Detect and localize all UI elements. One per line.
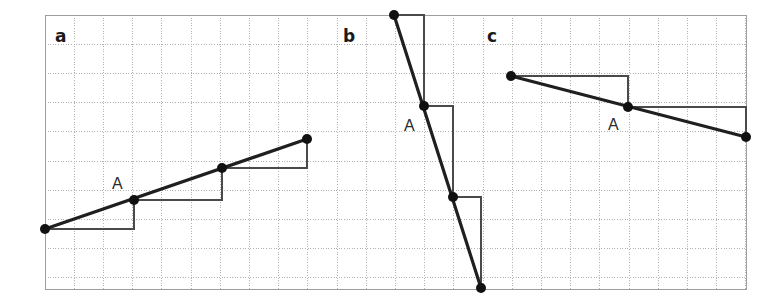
panel-letter-a: a [55, 26, 66, 46]
coordinate-grid [45, 15, 746, 289]
graph-point-b [448, 192, 458, 202]
point-label-a-a: A [112, 175, 123, 192]
graph-point-b [476, 283, 486, 293]
graph-point-c [623, 102, 633, 112]
graph-point-a [40, 224, 50, 234]
graph-point-a [302, 134, 312, 144]
graph-line-a [45, 139, 307, 229]
panel-letter-b: b [343, 26, 355, 46]
point-label-a-b: A [404, 117, 415, 134]
graph-point-a [217, 163, 227, 173]
slope-triangles-figure: aAbAcA [0, 0, 775, 308]
point-label-a-c: A [608, 116, 619, 133]
graph-point-b [419, 101, 429, 111]
graph-line-b [394, 15, 481, 288]
figure-canvas: aAbAcA [0, 0, 775, 308]
grid-border [45, 15, 746, 289]
graph-point-b [389, 10, 399, 20]
graph-point-c [741, 132, 751, 142]
graph-point-c [506, 71, 516, 81]
graph-points [40, 10, 751, 293]
panel-letter-c: c [487, 26, 497, 46]
graph-point-a [129, 195, 139, 205]
